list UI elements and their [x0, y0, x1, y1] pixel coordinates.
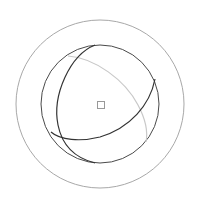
trackball-ring[interactable]	[41, 45, 159, 163]
rotation-gizmo[interactable]	[0, 0, 198, 208]
axis-arc-vertical[interactable]	[57, 45, 95, 163]
axis-arc-back[interactable]	[68, 56, 147, 142]
3d-viewport[interactable]	[0, 0, 198, 208]
axis-arc-horizontal[interactable]	[51, 79, 155, 140]
pivot-center-square[interactable]	[98, 102, 105, 109]
